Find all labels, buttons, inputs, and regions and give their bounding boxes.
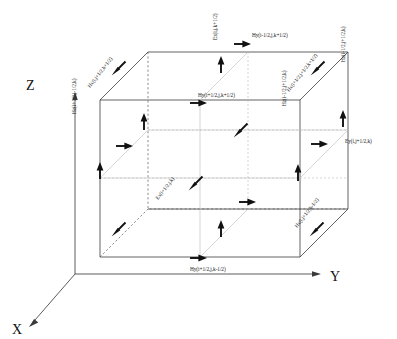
axis-labels-layer: ZYX (12, 78, 340, 337)
z-axis-label: Z (26, 78, 35, 93)
x-axis-label: X (12, 322, 22, 337)
field-label-hz-left-front: Hz(i+1/2,j-1/2,k) (71, 78, 78, 114)
field-label-hy-top-back: Hy(i-1/2,j,k+1/2) (252, 32, 288, 39)
y-axis-arrowhead (312, 271, 321, 277)
grid-diag-right-mid (300, 130, 348, 178)
field-label-hz-right-back: Hz(i-1/2,j+1/2,k) (340, 26, 347, 62)
vector-ey-right (311, 141, 328, 148)
vector-hz-left-lower (97, 162, 104, 179)
x-axis-line (35, 274, 75, 320)
vector-hz-right-back (340, 110, 347, 127)
yee-cell-canvas: Ez(i,j,k+1/2)Hy(i-1/2,j,k+1/2)Hx(i,j+1/2… (0, 0, 397, 339)
yee-cell-figure: Ez(i,j,k+1/2)Hy(i-1/2,j,k+1/2)Hx(i,j+1/2… (0, 0, 397, 339)
vector-ex-interior-diag (189, 177, 203, 191)
vector-ez-left-upper (141, 113, 148, 130)
vector-hx-bottom-right (310, 223, 324, 237)
field-vectors-layer (97, 41, 347, 262)
field-label-ez-top: Ez(i,j,k+1/2) (212, 13, 219, 40)
vector-hy-bottom-front (190, 255, 207, 262)
field-label-hz-mid-right: Hz(i-1/2,j+1/2,k) (281, 70, 288, 106)
cube-edge-bottom-left (100, 209, 148, 257)
vector-ez-bottom (218, 220, 225, 237)
field-label-ex-interior: Ex(i+1/2,j,k) (154, 176, 176, 202)
vector-hx-top-left (112, 62, 126, 76)
grid-diag-bottom-mid (200, 209, 248, 257)
field-label-hy-mid-front: Hy(i+1/2,j,k+1/2) (198, 92, 235, 99)
vector-hx-bottom-left (112, 223, 126, 237)
y-axis-label: Y (330, 269, 340, 284)
vector-hy-mid-front (190, 100, 207, 107)
vector-hx-top-right (311, 62, 325, 76)
vector-hz-left-mid (116, 143, 133, 150)
cube-wireframe (100, 52, 348, 257)
grid-diag-left-mid (100, 130, 148, 178)
x-axis-arrowhead (29, 319, 38, 327)
field-label-ey-right: Ey(i,j+1/2,k) (345, 138, 372, 145)
vector-hy-top-back (234, 41, 251, 48)
field-label-hx-bottom-right: Hx(i,j+1/2,k-1/2) (293, 197, 321, 230)
field-label-hy-bottom-front: Hy(i+1/2,j,k-1/2) (190, 266, 226, 273)
vector-ex-interior-right (239, 199, 256, 206)
vector-hz-mid-right (234, 124, 248, 138)
vector-ez-top (218, 56, 225, 73)
axes-group (29, 92, 321, 327)
field-label-hx-top-left: Hx(i,j+1/2,k+1/2) (86, 56, 114, 90)
